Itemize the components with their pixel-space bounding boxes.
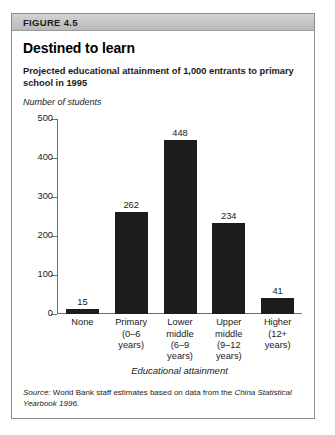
source-note: Source: World Bank staff estimates based… [23, 388, 304, 409]
bar [115, 212, 148, 314]
bar-series: 1526244823441 [58, 119, 302, 314]
y-axis-tick-label: 400 [37, 152, 57, 162]
figure-header-band: FIGURE 4.5 [12, 14, 314, 31]
x-axis-category-label: Lower middle (6–9 years) [157, 317, 203, 362]
bar-slot: 234 [212, 119, 245, 314]
x-axis-title: Educational attainment [57, 365, 302, 376]
chart-subtitle: Projected educational attainment of 1,00… [23, 65, 303, 89]
figure-number-label: FIGURE 4.5 [23, 17, 78, 28]
bar-value-label: 448 [164, 128, 197, 138]
figure-text-block: Destined to learn Projected educational … [12, 40, 314, 107]
x-axis-category-label: Upper middle (9–12 years) [206, 317, 252, 362]
x-axis-category-label: Primary (0–6 years) [108, 317, 154, 351]
bar-value-label: 15 [66, 297, 99, 307]
bar-slot: 41 [261, 119, 294, 314]
x-axis-category-label: Higher (12+ years) [255, 317, 301, 351]
bar [66, 309, 99, 315]
bar-value-label: 41 [261, 286, 294, 296]
bar-value-label: 262 [115, 200, 148, 210]
figure-card: FIGURE 4.5 Destined to learn Projected e… [11, 13, 315, 419]
source-text: World Bank staff estimates based on data… [51, 388, 235, 397]
bar-slot: 262 [115, 119, 148, 314]
y-axis-caption: Number of students [23, 97, 303, 107]
bar [212, 223, 245, 314]
bar [261, 298, 294, 314]
x-axis-category-label: None [59, 317, 105, 328]
y-axis-tick-label: 300 [37, 191, 57, 201]
source-prefix: Source: [23, 388, 51, 397]
y-axis-tick-label: 0 [48, 308, 57, 318]
chart-title: Destined to learn [23, 40, 303, 56]
bar-value-label: 234 [212, 211, 245, 221]
bar-slot: 15 [66, 119, 99, 314]
bar-slot: 448 [164, 119, 197, 314]
chart-plot: 0100200300400500 1526244823441 NonePrima… [12, 113, 314, 371]
y-axis-tick-label: 100 [37, 269, 57, 279]
bar [164, 140, 197, 315]
y-axis-tick-label: 200 [37, 230, 57, 240]
y-axis-tick-label: 500 [37, 113, 57, 123]
